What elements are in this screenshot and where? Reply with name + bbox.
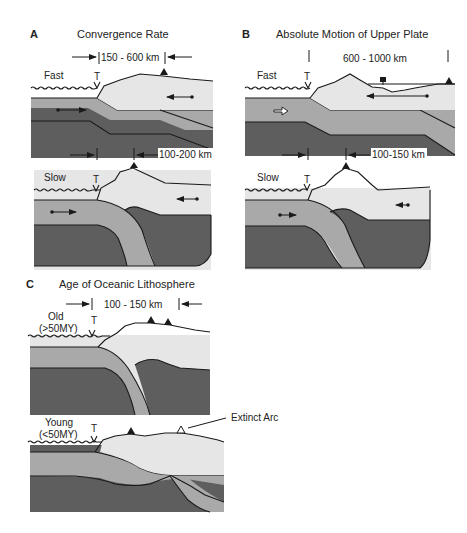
extinct-arc-annotation: Extinct Arc [231,412,278,423]
panel-a-letter: A [30,28,38,40]
panel-b-title: Absolute Motion of Upper Plate [276,28,428,40]
panel-c-old-label: Old [48,311,64,322]
panel-b-letter: B [242,28,250,40]
panel-a-fast-dimension-bottom: 100-200 km [159,149,212,160]
panel-a-fast-label: Fast [44,70,64,81]
panel-c-old-sublabel: (>50MY) [39,323,78,334]
panel-a-title: Convergence Rate [77,28,169,40]
panel-a-slow-label: Slow [44,172,66,183]
panel-b-slow-trench-label: T [304,174,310,185]
panel-c-young-trench-label: T [91,423,97,434]
panel-b-fast-trench-label: T [304,71,310,82]
panel-a-fast-diagram [31,52,213,160]
panel-c: C Age of Oceanic Lithosphere Old (>50MY)… [26,278,278,512]
panel-c-young-sublabel: (<50MY) [39,429,78,440]
panel-c-title: Age of Oceanic Lithosphere [59,278,195,290]
panel-a-fast-trench-label: T [94,71,100,82]
panel-c-young-label: Young [45,417,73,428]
panel-c-old-trench-label: T [91,315,97,326]
panel-a-slow-trench-label: T [93,174,99,185]
panel-b-fast-dimension-bottom: 100-150 km [372,149,425,160]
panel-a-fast-dimension-top: 150 - 600 km [101,52,159,63]
subduction-figure: A Convergence Rate [0,0,467,533]
panel-c-old-dimension-top: 100 - 150 km [104,299,162,310]
panel-c-letter: C [26,278,34,290]
panel-b: B Absolute Motion of Upper Plate [242,28,455,270]
panel-b-fast-label: Fast [257,70,277,81]
panel-b-slow-label: Slow [257,172,279,183]
panel-b-fast-dimension-top: 600 - 1000 km [343,53,407,64]
panel-b-fast-diagram [245,50,455,160]
panel-a: A Convergence Rate [30,28,216,270]
